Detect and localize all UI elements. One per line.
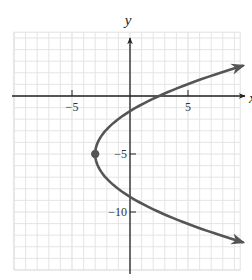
vertex-point xyxy=(91,150,99,158)
x-axis-label: x xyxy=(248,90,252,106)
y-tick-label: −10 xyxy=(108,205,127,219)
grid xyxy=(14,32,240,270)
x-tick-label: −5 xyxy=(66,100,79,114)
grid-border xyxy=(14,32,240,270)
y-axis-label: y xyxy=(123,12,132,28)
y-tick-label: −5 xyxy=(114,147,127,161)
axes xyxy=(12,38,245,274)
x-tick-label: 5 xyxy=(185,100,191,114)
tick-labels: −55−5−10yx xyxy=(66,12,252,219)
parabola-chart: −55−5−10yx xyxy=(0,0,252,280)
